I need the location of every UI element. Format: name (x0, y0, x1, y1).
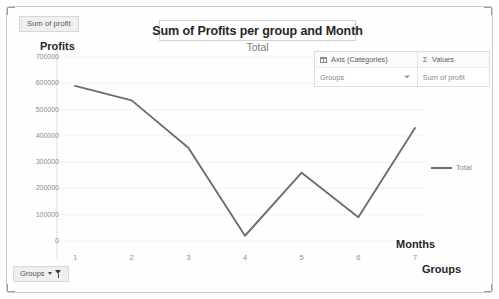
values-field-header-label: Values (432, 55, 454, 64)
chart-title-box: Sum of Profits per group and Month (159, 20, 356, 41)
x-tick-label: 4 (235, 253, 255, 262)
y-tick-label: 600000 (36, 79, 59, 86)
y-tick-label: 400000 (36, 132, 59, 139)
y-tick-label: 200000 (36, 184, 59, 191)
chevron-down-icon[interactable] (404, 76, 410, 79)
y-axis-title: Profits (40, 40, 75, 52)
x-tick-label: 3 (178, 253, 198, 262)
legend-label-total: Total (456, 163, 472, 172)
values-field-value-row[interactable]: Sum of profit (418, 68, 489, 86)
fields-pane-axis-column[interactable]: Axis (Categories) Groups (315, 52, 418, 86)
y-tick-label: 700000 (36, 53, 59, 60)
y-tick-label: 100000 (36, 211, 59, 218)
chart-legend[interactable]: Total (431, 163, 472, 172)
fields-pane-values-column[interactable]: Σ Values Sum of profit (418, 52, 489, 86)
x-tick-label: 6 (348, 253, 368, 262)
x-tick-label: 1 (65, 253, 85, 262)
x-tick-label: 2 (122, 253, 142, 262)
y-tick-label: 0 (55, 237, 59, 244)
y-tick-label: 300000 (36, 158, 59, 165)
chart-visual-container[interactable]: 7000006000005000004000003000002000001000… (6, 6, 493, 293)
legend-swatch-total (431, 167, 452, 169)
field-chip-label: Sum of profit (27, 19, 71, 28)
chevron-down-icon[interactable] (48, 272, 52, 275)
line-series-total[interactable] (75, 86, 415, 236)
axis-field-value: Groups (320, 73, 344, 82)
axis-field-header-label: Axis (Categories) (331, 55, 388, 64)
funnel-icon[interactable] (55, 270, 62, 278)
axis-field-header: Axis (Categories) (315, 52, 417, 68)
x-axis-title-secondary: Groups (422, 263, 461, 275)
values-field-value: Sum of profit (423, 73, 465, 82)
page-title: Sum of Profits per group and Month (152, 24, 362, 38)
fields-pane[interactable]: Axis (Categories) Groups Σ Values Sum of… (314, 51, 490, 87)
groups-filter-button[interactable]: Groups (13, 266, 69, 282)
values-field-header: Σ Values (418, 52, 489, 68)
groups-filter-label: Groups (20, 269, 45, 278)
x-axis-title: Months (396, 238, 435, 250)
sigma-icon: Σ (423, 56, 428, 64)
grid-icon (320, 57, 327, 63)
field-chip-sum-of-profit[interactable]: Sum of profit (19, 16, 79, 32)
x-tick-label: 7 (405, 253, 425, 262)
x-tick-label: 5 (292, 253, 312, 262)
y-tick-label: 500000 (36, 106, 59, 113)
axis-field-dropdown[interactable]: Groups (315, 68, 417, 86)
